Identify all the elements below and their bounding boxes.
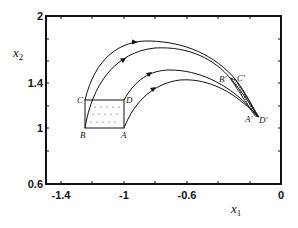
y-tick-label: 2 [37, 10, 43, 22]
trajectories [85, 41, 258, 128]
x-tick-label: -0.6 [178, 189, 197, 201]
y-tick-label: 1 [37, 122, 43, 134]
point-label-c-prime: C' [237, 73, 246, 83]
point-label-d-prime: D' [258, 115, 268, 125]
x-tick-label: -1.4 [52, 189, 72, 201]
x-axis-label: x1 [230, 201, 241, 218]
initial-region-dots [90, 106, 119, 122]
point-label-b: B [80, 130, 86, 140]
phase-portrait-figure: -1.4 -1 -0.6 0 0.6 1 1.4 2 x1 x2 C D B A… [0, 0, 298, 228]
x-tick-label: -1 [119, 189, 129, 201]
trajectory-from-b [85, 48, 258, 128]
y-tick-label: 0.6 [28, 178, 43, 190]
point-label-a: A [120, 130, 127, 140]
point-label-a-prime: A' [244, 114, 253, 124]
point-label-d: D [125, 95, 133, 105]
arrow-icon [132, 40, 138, 45]
y-tick-label: 1.4 [28, 77, 44, 89]
x-tick-label: 0 [278, 189, 284, 201]
arrow-icons [120, 40, 156, 93]
arrow-icon [146, 72, 152, 77]
final-region [230, 78, 259, 117]
y-axis-label: x2 [12, 45, 23, 62]
point-label-c: C [77, 95, 84, 105]
point-label-b-prime: B' [219, 74, 227, 84]
